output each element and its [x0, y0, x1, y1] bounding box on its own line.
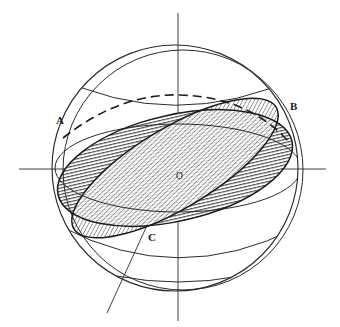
geometry-figure: A B C O	[0, 0, 340, 327]
label-b: B	[290, 100, 298, 112]
figure-canvas: A B C O	[0, 0, 340, 327]
label-a: A	[56, 114, 64, 126]
label-o: O	[176, 171, 183, 181]
label-c: C	[148, 231, 156, 243]
